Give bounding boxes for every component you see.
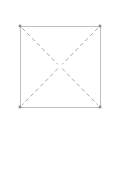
page-canvas — [0, 0, 113, 171]
square-diagonals-figure — [0, 0, 113, 171]
corner-marker-top-right — [99, 25, 102, 28]
corner-marker-bottom-right — [99, 106, 102, 109]
corner-marker-bottom-left — [19, 106, 22, 109]
corner-marker-top-left — [19, 25, 22, 28]
